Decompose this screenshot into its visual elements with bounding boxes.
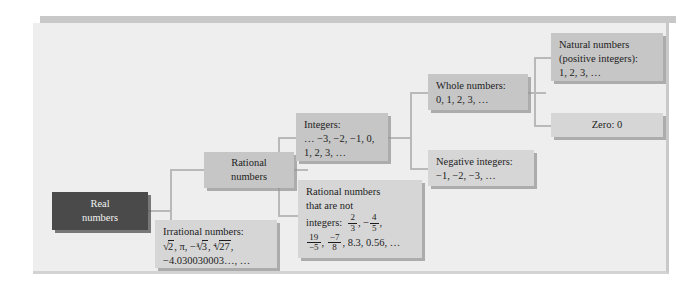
node-irrational-numbers[interactable]: Irrational numbers: √2, π, −3√3, 4√27, −… <box>155 220 277 268</box>
connector-to-integers <box>278 137 296 139</box>
connector-to-whole <box>410 92 428 94</box>
sqrt-2-icon: √2 <box>163 239 174 254</box>
connector-integers-bracket <box>410 92 412 168</box>
node-negative-label: Negative integers: <box>436 155 526 169</box>
top-accent-bar <box>40 16 676 23</box>
connector-whole-stub <box>528 92 546 94</box>
connector-whole-bracket <box>534 57 536 125</box>
number-system-diagram: Real numbers Rational numbers Irrational… <box>0 0 692 297</box>
node-integers[interactable]: Integers: … −3, −2, −1, 0, 1, 2, 3, … <box>296 113 388 161</box>
connector-real-stub <box>148 210 170 212</box>
node-non-integer-label: integers: <box>306 218 342 229</box>
node-integers-label: Integers: <box>304 118 380 132</box>
connector-to-rational <box>170 169 204 171</box>
node-rational-numbers-line1: Rational <box>212 156 286 170</box>
node-real-numbers[interactable]: Real numbers <box>52 192 148 230</box>
node-natural-line1: Natural numbers <box>559 38 655 52</box>
node-whole-numbers[interactable]: Whole numbers: 0, 1, 2, 3, … <box>428 74 528 110</box>
node-real-numbers-line1: Real <box>60 197 140 211</box>
fraction-four-fifths: 45 <box>370 213 379 233</box>
connector-integers-stub <box>388 137 410 139</box>
cube-root-3-icon: 3√3 <box>196 239 208 254</box>
node-irrational-label: Irrational numbers: <box>163 225 269 239</box>
connector-to-negative <box>410 168 428 170</box>
node-real-numbers-line2: numbers <box>60 211 140 225</box>
node-non-integer-line1: Rational numbers <box>306 185 414 199</box>
fraction-nineteen-over-neg-five: 19−5 <box>307 233 321 253</box>
node-non-integer-line3: integers: 23, −45, <box>306 213 414 233</box>
node-irrational-decimal: −4.030030003…, … <box>163 254 269 268</box>
node-zero-label: Zero: 0 <box>592 118 623 132</box>
node-rational-numbers-line2: numbers <box>212 170 286 184</box>
connector-to-natural <box>534 57 552 59</box>
node-whole-label: Whole numbers: <box>436 79 520 93</box>
node-rational-numbers[interactable]: Rational numbers <box>204 152 294 188</box>
node-integers-line2: … −3, −2, −1, 0, <box>304 132 380 146</box>
fraction-neg-seven-eighths: −78 <box>328 233 342 253</box>
node-non-integer-line2: that are not <box>306 199 414 213</box>
node-zero[interactable]: Zero: 0 <box>551 113 663 137</box>
node-non-integer-rationals[interactable]: Rational numbers that are not integers: … <box>298 180 422 258</box>
node-negative-integers[interactable]: Negative integers: −1, −2, −3, … <box>428 150 534 186</box>
connector-to-zero <box>534 125 552 127</box>
node-non-integer-line4: 19−5, −78, 8.3, 0.56, … <box>306 233 414 253</box>
node-irrational-values: √2, π, −3√3, 4√27, <box>163 239 269 254</box>
node-whole-values: 0, 1, 2, 3, … <box>436 93 520 107</box>
node-natural-numbers[interactable]: Natural numbers (positive integers): 1, … <box>551 33 663 81</box>
node-non-integer-tail: , 8.3, 0.56, … <box>342 237 400 248</box>
connector-to-nonintegers <box>278 215 298 217</box>
connector-rational-stub <box>294 169 308 171</box>
node-integers-line3: 1, 2, 3, … <box>304 146 380 160</box>
fraction-two-thirds: 23 <box>348 213 357 233</box>
node-negative-values: −1, −2, −3, … <box>436 169 526 183</box>
node-natural-line3: 1, 2, 3, … <box>559 66 655 80</box>
node-natural-line2: (positive integers): <box>559 52 655 66</box>
fourth-root-27-icon: 4√27 <box>213 239 230 254</box>
